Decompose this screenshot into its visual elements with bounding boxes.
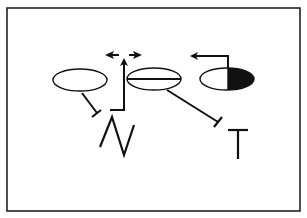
ellipse-left bbox=[53, 69, 107, 91]
schematic-diagram: N T bbox=[0, 0, 307, 218]
ellipse-middle bbox=[127, 68, 181, 90]
label-N bbox=[100, 117, 134, 155]
activation-arrow-up bbox=[110, 60, 124, 110]
ellipse-right bbox=[200, 68, 254, 90]
figure-caption bbox=[0, 212, 307, 218]
label-T bbox=[228, 130, 248, 159]
diagram-canvas: N T bbox=[0, 0, 307, 218]
inhibition-bar-icon bbox=[214, 117, 222, 127]
double-headed-arrow-icon bbox=[105, 51, 142, 59]
inhibition-arrow-left-to-N bbox=[82, 93, 101, 117]
figure-frame bbox=[7, 8, 300, 211]
activation-arrow-left bbox=[192, 56, 228, 68]
inhibition-arrow-middle-to-T bbox=[167, 90, 222, 127]
